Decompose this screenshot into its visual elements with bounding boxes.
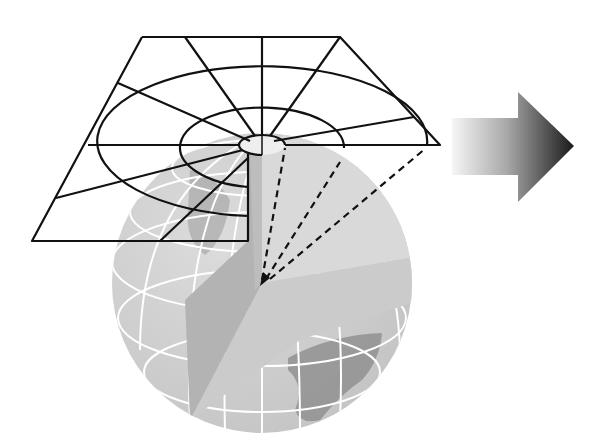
globe — [112, 133, 430, 433]
azimuthal-projection-diagram: Azimuthal (planar) map projection — [0, 0, 603, 447]
arrow-right-icon — [452, 92, 574, 202]
